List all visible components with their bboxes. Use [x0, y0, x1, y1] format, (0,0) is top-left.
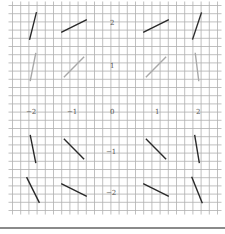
slope-segment — [192, 12, 201, 39]
graph-paper: −2 −1 0 1 2 2 1 −1 −2 — [0, 0, 225, 234]
slope-segment — [30, 135, 36, 163]
y-tick-label-neg1: −1 — [106, 148, 116, 156]
slope-segment — [195, 135, 200, 163]
y-tick-label-2: 2 — [110, 19, 114, 27]
slope-field-figure: −2 −1 0 1 2 2 1 −1 −2 — [0, 0, 225, 234]
bottom-divider — [0, 227, 225, 229]
minor-gridlines — [9, 2, 222, 215]
y-tick-label-neg2: −2 — [106, 189, 116, 197]
x-tick-label-2: 2 — [196, 108, 200, 116]
x-tick-label-neg2: −2 — [26, 108, 36, 116]
y-tick-label-1: 1 — [110, 62, 114, 70]
x-tick-label-neg1: −1 — [67, 108, 77, 116]
slope-segment — [64, 139, 84, 159]
slope-segment — [64, 57, 84, 77]
slope-segment — [146, 139, 166, 159]
slope-segment — [30, 12, 37, 40]
axis-labels: −2 −1 0 1 2 2 1 −1 −2 — [26, 19, 200, 197]
origin-label: 0 — [110, 108, 114, 116]
slope-segment — [30, 53, 36, 81]
slope-segment — [195, 53, 199, 81]
x-tick-label-1: 1 — [155, 108, 159, 116]
slope-segment — [146, 57, 166, 77]
